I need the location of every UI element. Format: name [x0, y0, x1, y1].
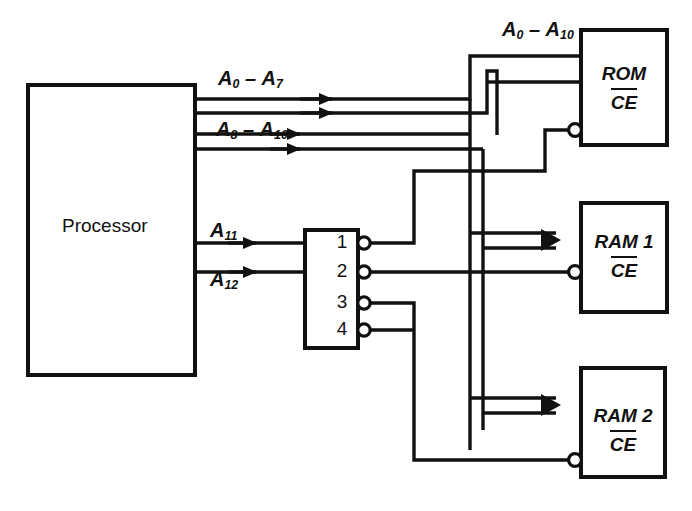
- decoder-out4-bubble-icon: [358, 324, 370, 336]
- ram1-ce-label: CE: [611, 256, 637, 282]
- ram2-ce-bubble-icon: [569, 454, 582, 467]
- ram1-ce-bubble-icon: [569, 266, 582, 279]
- decoder-out34-down: [414, 330, 570, 460]
- decoder-output-3-number: 3: [330, 291, 354, 313]
- decoder-out1-wire: [370, 171, 447, 243]
- rom-block-label: ROM CE: [581, 62, 667, 114]
- decoder-output-4-number: 4: [330, 318, 354, 340]
- decoder-output-2-number: 2: [330, 260, 354, 282]
- decoder-output-1-number: 1: [330, 231, 354, 253]
- ram2-name: RAM 2: [581, 404, 665, 427]
- processor-label: Processor: [62, 215, 148, 237]
- bus-label-a0-a10: A0 – A10: [502, 19, 574, 42]
- bus-label-a8-a10: A8 – A10: [216, 119, 288, 142]
- decoder-out3-bubble-icon: [358, 297, 370, 309]
- ram1-block-label: RAM 1 CE: [581, 230, 667, 282]
- ram1-name: RAM 1: [581, 230, 667, 253]
- ram2-block-label: RAM 2 CE: [581, 404, 665, 456]
- signal-label-a12: A12: [210, 269, 238, 292]
- decoder-out3-wire: [370, 303, 414, 330]
- rom-ce-label: CE: [611, 88, 637, 114]
- signal-label-a11: A11: [210, 220, 237, 243]
- decoder-out2-bubble-icon: [358, 266, 370, 278]
- bus-label-a0-a7: A0 – A7: [218, 68, 283, 91]
- ram2-ce-label: CE: [610, 430, 636, 456]
- decoder-out1-bubble-icon: [358, 237, 370, 249]
- block-diagram-canvas: Processor A0 – A7 A8 – A10 A0 – A10 A11 …: [0, 0, 692, 511]
- rom-ce-bubble-icon: [569, 124, 582, 137]
- rom-name: ROM: [581, 62, 667, 85]
